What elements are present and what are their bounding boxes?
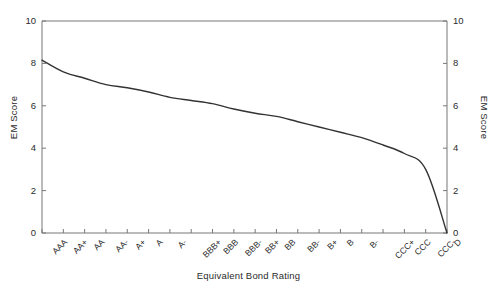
data-line-em-score <box>42 60 447 233</box>
y-tick-label-left: 4 <box>16 143 36 153</box>
y-tick-label-left: 8 <box>16 58 36 68</box>
y-tick-label-left: 0 <box>16 228 36 238</box>
y-axis-title-right: EM Score <box>479 88 490 148</box>
y-tick-label-left: 6 <box>16 101 36 111</box>
y-tick-label-right: 4 <box>453 143 473 153</box>
x-axis-title: Equivalent Bond Rating <box>0 270 497 281</box>
chart-figure: EM Score EM Score Equivalent Bond Rating… <box>0 0 497 294</box>
y-tick-label-right: 8 <box>453 58 473 68</box>
y-tick-label-right: 10 <box>453 16 473 26</box>
y-tick-label-right: 6 <box>453 101 473 111</box>
y-axis-title-left: EM Score <box>8 88 19 148</box>
y-tick-label-right: 2 <box>453 186 473 196</box>
y-tick-label-left: 2 <box>16 186 36 196</box>
y-tick-label-left: 10 <box>16 16 36 26</box>
